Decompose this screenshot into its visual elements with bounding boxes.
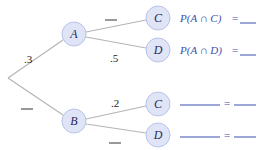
svg-text:D: D bbox=[153, 128, 163, 142]
node-a-c: C bbox=[146, 6, 170, 30]
result-equals-ad: = bbox=[232, 44, 238, 56]
node-b-d: D bbox=[146, 123, 170, 147]
edge-a-c bbox=[86, 20, 146, 32]
svg-text:B: B bbox=[70, 114, 78, 128]
node-a: A bbox=[62, 22, 86, 46]
edge-b-d bbox=[86, 124, 146, 133]
node-a-d: D bbox=[146, 38, 170, 62]
prob-a-d: .5 bbox=[110, 52, 119, 64]
result-equals-ac: = bbox=[232, 12, 238, 24]
edge-root-a bbox=[8, 40, 63, 78]
svg-text:C: C bbox=[154, 11, 163, 25]
svg-text:D: D bbox=[153, 43, 163, 57]
prob-b-c: .2 bbox=[111, 97, 119, 109]
prob-root-a: .3 bbox=[24, 53, 33, 65]
node-b: B bbox=[62, 109, 86, 133]
svg-text:C: C bbox=[154, 97, 163, 111]
probability-tree-diagram: .3 .5 .2 A B C D C D P(A ∩ C) = P(A ∩ D)… bbox=[0, 0, 258, 150]
result-equals-bd: = bbox=[224, 129, 230, 141]
result-equals-bc: = bbox=[224, 97, 230, 109]
edge-root-b bbox=[8, 78, 63, 115]
edge-a-d bbox=[86, 37, 146, 48]
svg-text:A: A bbox=[69, 27, 78, 41]
result-expression-ac: P(A ∩ C) bbox=[179, 12, 222, 25]
node-b-c: C bbox=[146, 92, 170, 116]
result-expression-ad: P(A ∩ D) bbox=[179, 44, 222, 57]
